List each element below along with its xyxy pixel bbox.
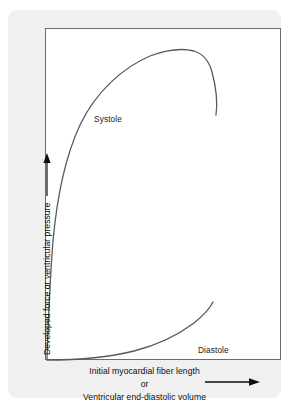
right-arrow-icon	[204, 377, 260, 387]
systole-curve	[47, 50, 217, 359]
plot-curves-svg	[46, 29, 282, 361]
plot-frame: Systole Diastole	[45, 28, 281, 360]
x-axis-label-line-3: Ventricular end-diastolic volume	[8, 392, 281, 402]
up-arrow-icon	[42, 153, 52, 197]
x-axis-label-group: Initial myocardial fiber length or Ventr…	[8, 366, 281, 408]
diastole-curve-label: Diastole	[198, 345, 229, 355]
y-axis-label-group: Developed force or ventricular pressure	[37, 105, 57, 355]
figure-card: Systole Diastole Developed force or vent…	[8, 10, 281, 398]
systole-curve-label: Systole	[94, 114, 122, 124]
x-axis-label-line-1: Initial myocardial fiber length	[8, 366, 281, 376]
y-axis-label: Developed force or ventricular pressure	[42, 203, 52, 355]
diastole-curve	[47, 302, 213, 360]
